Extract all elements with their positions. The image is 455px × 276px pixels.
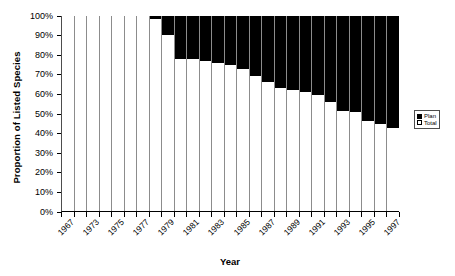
legend-item[interactable]: Total: [417, 120, 437, 126]
y-axis-tick-label: 40%: [35, 129, 57, 138]
bar-column[interactable]: [212, 16, 225, 211]
bar-segment-plan: [175, 16, 187, 60]
bar-segment-total: [262, 82, 274, 211]
bar-column[interactable]: [150, 16, 163, 211]
bar-column[interactable]: [262, 16, 275, 211]
x-axis-tick-label: 1979: [150, 217, 177, 244]
bar-column[interactable]: [387, 16, 399, 211]
bar-column[interactable]: [300, 16, 313, 211]
bar-segment-total: [150, 19, 162, 211]
y-axis-tick-label: 30%: [35, 149, 57, 158]
y-axis-tick-label: 70%: [35, 70, 57, 79]
bar-column[interactable]: [312, 16, 325, 211]
bar-column[interactable]: [187, 16, 200, 211]
bar-segment-total: [225, 65, 237, 211]
y-axis-tick-label: 60%: [35, 90, 57, 99]
y-axis-tick-label: 20%: [35, 168, 57, 177]
bar-segment-total: [200, 61, 212, 211]
bar-column[interactable]: [225, 16, 238, 211]
bars-container: [62, 16, 399, 211]
bar-column[interactable]: [87, 16, 100, 211]
y-axis-tick-label: 10%: [35, 188, 57, 197]
bar-segment-plan: [350, 16, 362, 113]
x-axis-tick-label: 1991: [300, 217, 327, 244]
bar-segment-plan: [212, 16, 224, 64]
bar-segment-total: [375, 124, 387, 211]
x-axis-title: Year: [61, 256, 399, 267]
bar-column[interactable]: [200, 16, 213, 211]
bar-column[interactable]: [62, 16, 75, 211]
bar-segment-total: [175, 59, 187, 211]
bar-column[interactable]: [362, 16, 375, 211]
bar-segment-plan: [237, 16, 249, 70]
bar-segment-total: [362, 121, 374, 211]
bar-segment-total: [100, 15, 112, 211]
bar-segment-total: [237, 69, 249, 211]
y-axis-tick-label: 50%: [35, 110, 57, 119]
bar-column[interactable]: [325, 16, 338, 211]
bar-segment-total: [62, 15, 74, 211]
bar-segment-total: [387, 128, 399, 211]
x-axis-tick-label: 1967: [49, 217, 76, 244]
legend-swatch-icon: [417, 114, 422, 119]
legend-item-label: Total: [424, 120, 437, 126]
bar-column[interactable]: [250, 16, 263, 211]
bar-column[interactable]: [287, 16, 300, 211]
bar-segment-plan: [162, 16, 174, 36]
x-axis-tick-label: 1989: [275, 217, 302, 244]
bar-segment-plan: [362, 16, 374, 122]
plot-area: [61, 16, 399, 212]
bar-column[interactable]: [350, 16, 363, 211]
bar-segment-total: [250, 76, 262, 211]
bar-column[interactable]: [75, 16, 88, 211]
bar-segment-plan: [375, 16, 387, 125]
bar-column[interactable]: [275, 16, 288, 211]
y-axis-tick-label: 80%: [35, 51, 57, 60]
bar-segment-total: [162, 35, 174, 211]
bar-segment-total: [312, 95, 324, 211]
x-axis-tick-label: 1981: [175, 217, 202, 244]
bar-segment-total: [287, 90, 299, 211]
stacked-bar-chart: Proportion of Listed Species 0%10%20%30%…: [0, 0, 455, 276]
x-axis-tick-label: 1985: [225, 217, 252, 244]
x-axis-tick-label: 1987: [250, 217, 277, 244]
bar-column[interactable]: [337, 16, 350, 211]
bar-column[interactable]: [100, 16, 113, 211]
bar-column[interactable]: [125, 16, 138, 211]
x-axis-tick-label: 1983: [200, 217, 227, 244]
bar-column[interactable]: [175, 16, 188, 211]
bar-segment-plan: [337, 16, 349, 112]
bar-column[interactable]: [112, 16, 125, 211]
bar-segment-total: [125, 15, 137, 211]
bar-segment-plan: [250, 16, 262, 77]
chart-legend: PlanTotal: [414, 110, 440, 129]
y-axis-tick-label: 0%: [40, 208, 57, 217]
bar-segment-total: [212, 63, 224, 211]
x-axis-tick-label: 1973: [74, 217, 101, 244]
x-axis-tick-mark: [399, 212, 400, 217]
bar-segment-plan: [312, 16, 324, 96]
x-axis-tick-label: 1977: [125, 217, 152, 244]
bar-segment-total: [137, 15, 149, 211]
legend-item-label: Plan: [424, 113, 436, 119]
y-axis-tick-label: 100%: [30, 12, 57, 21]
bar-column[interactable]: [237, 16, 250, 211]
bar-segment-total: [275, 88, 287, 211]
bar-column[interactable]: [162, 16, 175, 211]
bar-segment-plan: [225, 16, 237, 66]
bar-segment-total: [187, 59, 199, 211]
bar-column[interactable]: [137, 16, 150, 211]
bar-column[interactable]: [375, 16, 388, 211]
bar-segment-plan: [325, 16, 337, 103]
bar-segment-plan: [287, 16, 299, 91]
x-axis-tick-label: 1995: [350, 217, 377, 244]
bar-segment-total: [87, 15, 99, 211]
bar-segment-plan: [200, 16, 212, 62]
bar-segment-plan: [187, 16, 199, 60]
bar-segment-total: [75, 15, 87, 211]
x-axis-tick-label: 1993: [325, 217, 352, 244]
x-axis-tick-label: 1975: [100, 217, 127, 244]
x-axis-tick-label: 1997: [375, 217, 402, 244]
legend-item[interactable]: Plan: [417, 113, 437, 119]
bar-segment-plan: [275, 16, 287, 89]
